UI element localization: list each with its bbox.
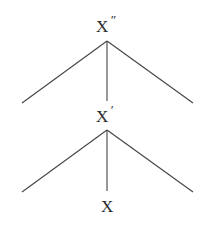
upper-branches [22,41,193,103]
lower-right-branch [107,130,193,192]
upper-right-branch [107,41,193,103]
node-x-bar: X ′ [96,102,113,126]
lower-left-branch [22,130,107,192]
node-x-bar-prime: ′ [110,102,113,117]
node-x-head: X [101,197,113,216]
node-x-double-bar-prime: ″ [110,12,116,27]
x-bar-tree-diagram: X ″ X ′ X [0,0,218,230]
upper-left-branch [22,41,107,103]
node-x-double-bar: X ″ [96,12,116,36]
lower-branches [22,130,193,192]
node-x-bar-base: X [96,107,108,126]
node-x-double-bar-base: X [96,17,108,36]
node-x-head-base: X [101,197,113,216]
